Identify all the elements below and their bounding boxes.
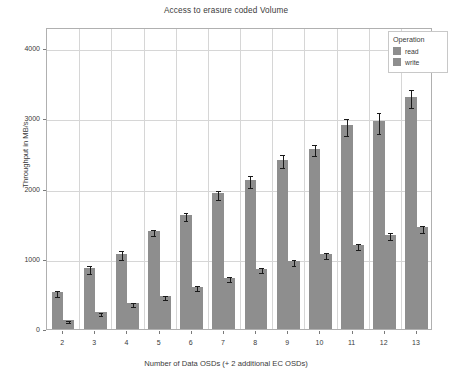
x-tick-label: 5 <box>147 339 171 346</box>
error-bar-cap-top <box>227 277 232 278</box>
legend-swatch-icon <box>393 58 401 66</box>
error-bar-cap-top <box>259 268 264 269</box>
bar-write-11 <box>353 245 364 329</box>
error-bar-cap-top <box>388 233 393 234</box>
error-bar-cap-bottom <box>163 300 168 301</box>
error-bar-stem <box>411 90 412 108</box>
x-tick-mark <box>223 331 224 334</box>
x-tick-label: 12 <box>372 339 396 346</box>
error-bar-stem <box>122 251 123 260</box>
error-bar-cap-top <box>420 226 425 227</box>
error-bar-stem <box>390 233 391 240</box>
error-bar-cap-bottom <box>420 233 425 234</box>
legend-item-read[interactable]: read <box>393 46 444 56</box>
error-bar-cap-bottom <box>312 156 317 157</box>
x-tick-label: 6 <box>179 339 203 346</box>
error-bar-cap-top <box>216 191 221 192</box>
error-bar-cap-bottom <box>131 307 136 308</box>
gridline-vertical <box>337 29 338 329</box>
error-bar-cap-bottom <box>227 282 232 283</box>
error-bar-cap-bottom <box>151 236 156 237</box>
error-bar-cap-bottom <box>184 221 189 222</box>
error-bar-cap-top <box>87 266 92 267</box>
error-bar-cap-bottom <box>99 316 104 317</box>
legend-item-label: write <box>405 59 419 66</box>
error-bar-cap-bottom <box>324 259 329 260</box>
x-tick-label: 8 <box>243 339 267 346</box>
legend-item-write[interactable]: write <box>393 57 444 67</box>
bar-write-12 <box>385 235 396 329</box>
error-bar-cap-top <box>344 119 349 120</box>
x-tick-mark <box>319 331 320 334</box>
x-tick-mark <box>352 331 353 334</box>
error-bar-stem <box>379 113 380 134</box>
error-bar-cap-bottom <box>119 260 124 261</box>
bar-read-12 <box>373 121 384 329</box>
legend-item-label: read <box>405 48 419 55</box>
error-bar-stem <box>218 191 219 201</box>
x-tick-label: 7 <box>211 339 235 346</box>
error-bar-cap-top <box>99 313 104 314</box>
error-bar-cap-top <box>163 296 168 297</box>
bar-read-4 <box>116 254 127 329</box>
chart-figure: Access to erasure coded Volume Throughpu… <box>0 0 452 382</box>
bar-read-6 <box>180 215 191 329</box>
bar-read-3 <box>84 268 95 329</box>
error-bar-cap-top <box>195 286 200 287</box>
y-axis-label: Throughput in MB/s <box>21 85 30 225</box>
chart-legend: Operation readwrite <box>388 31 448 73</box>
bar-read-9 <box>277 160 288 329</box>
error-bar-cap-bottom <box>377 134 382 135</box>
bar-write-9 <box>288 261 299 329</box>
error-bar-cap-top <box>248 176 253 177</box>
error-bar-cap-bottom <box>195 291 200 292</box>
error-bar-cap-top <box>151 230 156 231</box>
error-bar-cap-bottom <box>356 250 361 251</box>
error-bar-cap-bottom <box>216 200 221 201</box>
bar-write-6 <box>192 287 203 329</box>
bar-write-8 <box>256 269 267 329</box>
x-tick-label: 4 <box>114 339 138 346</box>
bar-read-10 <box>309 149 320 329</box>
error-bar-cap-top <box>55 291 60 292</box>
error-bar-stem <box>315 145 316 157</box>
error-bar-cap-bottom <box>409 108 414 109</box>
gridline-vertical <box>401 29 402 329</box>
error-bar-cap-bottom <box>87 274 92 275</box>
error-bar-cap-top <box>66 321 71 322</box>
gridline-vertical <box>144 29 145 329</box>
chart-title: Access to erasure coded Volume <box>0 6 452 15</box>
error-bar-cap-bottom <box>280 168 285 169</box>
x-tick-label: 3 <box>82 339 106 346</box>
error-bar-cap-bottom <box>344 136 349 137</box>
x-tick-label: 10 <box>307 339 331 346</box>
x-tick-mark <box>255 331 256 334</box>
gridline-vertical <box>369 29 370 329</box>
gridline-vertical <box>272 29 273 329</box>
gridline-vertical <box>304 29 305 329</box>
x-tick-mark <box>416 331 417 334</box>
x-tick-label: 11 <box>340 339 364 346</box>
x-tick-mark <box>159 331 160 334</box>
x-tick-label: 13 <box>404 339 428 346</box>
y-tick-label: 1000 <box>6 256 40 263</box>
error-bar-cap-top <box>409 90 414 91</box>
plot-area <box>46 28 432 330</box>
x-tick-mark <box>62 331 63 334</box>
x-tick-mark <box>191 331 192 334</box>
error-bar-cap-bottom <box>66 323 71 324</box>
error-bar-cap-top <box>292 260 297 261</box>
x-tick-mark <box>384 331 385 334</box>
bar-write-13 <box>417 227 428 329</box>
y-tick-label: 0 <box>6 326 40 333</box>
legend-swatch-icon <box>393 47 401 55</box>
error-bar-cap-top <box>280 155 285 156</box>
error-bar-cap-top <box>377 113 382 114</box>
error-bar-cap-top <box>184 213 189 214</box>
error-bar-cap-top <box>119 251 124 252</box>
x-tick-mark <box>126 331 127 334</box>
x-axis-label: Number of Data OSDs (+ 2 additional EC O… <box>0 359 452 368</box>
error-bar-cap-bottom <box>292 266 297 267</box>
bar-read-11 <box>341 125 352 329</box>
legend-items: readwrite <box>393 46 444 67</box>
